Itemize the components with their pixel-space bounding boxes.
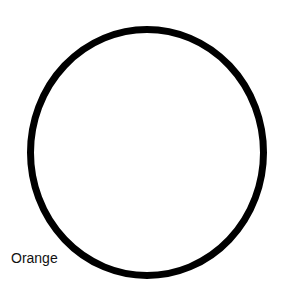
circle-outline bbox=[31, 30, 264, 276]
shape-label: Orange bbox=[11, 250, 58, 266]
diagram-canvas: Orange bbox=[0, 0, 288, 303]
